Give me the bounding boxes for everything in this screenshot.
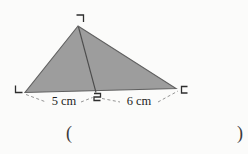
answer-open-paren: ( (66, 123, 72, 144)
vertex-label-rieul-base-point (94, 94, 101, 101)
dash-segment (26, 95, 46, 103)
dash-segment (81, 98, 93, 103)
vertex-label-digeut-bottom-right (182, 87, 188, 94)
measurement-right-label: 6 cm (127, 94, 152, 108)
measurement-left-label: 5 cm (52, 94, 77, 108)
geometry-figure: 5 cm 6 cm ( ) (0, 0, 248, 154)
worksheet-page: 5 cm 6 cm ( ) (0, 0, 248, 154)
dash-segment (158, 91, 178, 102)
triangle-shape (25, 26, 176, 93)
vertex-label-nieun-bottom-left (16, 86, 23, 93)
vertex-label-giyeok-top (77, 15, 84, 22)
dash-segment (102, 99, 120, 103)
answer-close-paren: ) (237, 123, 243, 144)
